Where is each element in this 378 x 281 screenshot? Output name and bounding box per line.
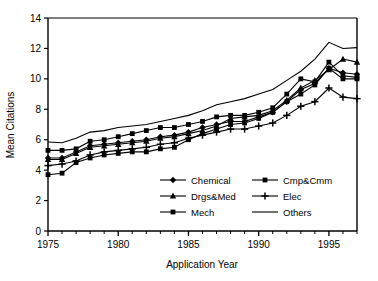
legend-label: Mech xyxy=(191,207,214,218)
y-tick-label: 8 xyxy=(35,104,41,115)
y-tick-label: 2 xyxy=(35,195,41,206)
x-tick-label: 1990 xyxy=(248,239,271,250)
y-tick-label: 14 xyxy=(30,13,42,24)
x-tick-label: 1995 xyxy=(318,239,341,250)
y-tick-label: 12 xyxy=(30,43,42,54)
x-tick-label: 1980 xyxy=(107,239,130,250)
y-tick-label: 4 xyxy=(35,165,41,176)
y-tick-label: 6 xyxy=(35,134,41,145)
x-axis-title: Application Year xyxy=(166,259,238,270)
x-tick-label: 1985 xyxy=(177,239,200,250)
legend-label: Chemical xyxy=(191,175,231,186)
legend-label: Cmp&Cmm xyxy=(283,175,332,186)
x-tick-label: 1975 xyxy=(37,239,60,250)
legend-label: Drgs&Med xyxy=(191,191,236,202)
y-axis-title: Mean Citations xyxy=(5,92,16,159)
chart-container: 02468101214 19751980198519901995 Applica… xyxy=(0,0,378,281)
legend-label: Elec xyxy=(283,191,302,202)
y-tick-label: 10 xyxy=(30,73,42,84)
line-chart: 02468101214 19751980198519901995 Applica… xyxy=(0,0,378,281)
y-tick-label: 0 xyxy=(35,226,41,237)
legend-label: Others xyxy=(283,207,312,218)
